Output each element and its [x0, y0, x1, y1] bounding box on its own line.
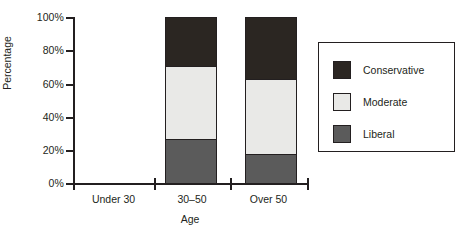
- bar-segment-liberal: [246, 155, 296, 183]
- stacked-bar-chart: 100% 80% 60% 40% 20% 0% Percentage Under…: [0, 0, 467, 242]
- y-tick-label-20: 20%: [22, 144, 64, 156]
- x-tick-label-30-50: 30–50: [154, 193, 230, 205]
- y-tick-label-100: 100%: [22, 11, 64, 23]
- liberal-swatch-icon: [333, 125, 351, 143]
- y-tick-label-60: 60%: [22, 78, 64, 90]
- bar-segment-conservative: [246, 18, 296, 79]
- plot-area: [73, 17, 307, 184]
- legend-label-conservative: Conservative: [363, 64, 424, 76]
- bar-segment-liberal: [166, 140, 216, 183]
- y-tick-label-40: 40%: [22, 111, 64, 123]
- legend: Conservative Moderate Liberal: [318, 42, 455, 152]
- x-axis-title: Age: [0, 213, 380, 225]
- bar-over-50: [245, 17, 297, 184]
- legend-item-moderate: Moderate: [333, 93, 407, 111]
- y-tick-label-80: 80%: [22, 44, 64, 56]
- bar-segment-moderate: [246, 79, 296, 155]
- legend-label-liberal: Liberal: [363, 128, 395, 140]
- bar-segment-conservative: [166, 18, 216, 66]
- conservative-swatch-icon: [333, 61, 351, 79]
- bar-segment-moderate: [166, 66, 216, 140]
- x-tick-label-over-50: Over 50: [230, 193, 307, 205]
- legend-item-liberal: Liberal: [333, 125, 395, 143]
- y-tick-label-0: 0%: [22, 177, 64, 189]
- y-axis-title: Percentage: [1, 23, 13, 103]
- moderate-swatch-icon: [333, 93, 351, 111]
- legend-item-conservative: Conservative: [333, 61, 424, 79]
- x-tick-label-under-30: Under 30: [73, 193, 154, 205]
- legend-label-moderate: Moderate: [363, 96, 407, 108]
- x-tick-3: [307, 178, 309, 190]
- bar-30-50: [165, 17, 217, 184]
